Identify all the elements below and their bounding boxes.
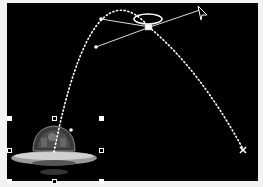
- path-start-point[interactable]: [69, 128, 73, 132]
- rotation-halo[interactable]: [134, 14, 162, 24]
- ufo-saucer-highlight: [14, 152, 94, 160]
- bezier-control-point[interactable]: [145, 24, 152, 30]
- tangent-handle-upper[interactable]: [99, 17, 103, 21]
- tangent-handle-lower[interactable]: [94, 45, 98, 49]
- x-end-marker-icon[interactable]: [240, 147, 246, 153]
- selection-handle-middle-right[interactable]: [99, 148, 104, 153]
- ufo-panel-right: [60, 138, 66, 147]
- arrow-cursor-icon: [198, 6, 207, 20]
- selection-handle-middle-left[interactable]: [7, 148, 12, 153]
- selection-handle-bottom-center[interactable]: [52, 179, 57, 184]
- ufo-bottom-glow: [40, 169, 68, 175]
- motion-path[interactable]: [54, 10, 243, 152]
- motion-path-overlay: [0, 0, 263, 187]
- selection-handle-bottom-right[interactable]: [99, 179, 104, 184]
- tangent-line-lower-left: [96, 27, 150, 47]
- selection-handle-top-center[interactable]: [52, 116, 57, 121]
- selection-handle-top-right[interactable]: [99, 116, 104, 121]
- selection-handle-bottom-left[interactable]: [7, 179, 12, 184]
- ufo-underside: [32, 160, 76, 166]
- ufo-panel-left: [41, 138, 47, 147]
- tangent-line-right: [150, 10, 200, 27]
- alien-head: [48, 133, 56, 141]
- selection-handle-top-left[interactable]: [7, 116, 12, 121]
